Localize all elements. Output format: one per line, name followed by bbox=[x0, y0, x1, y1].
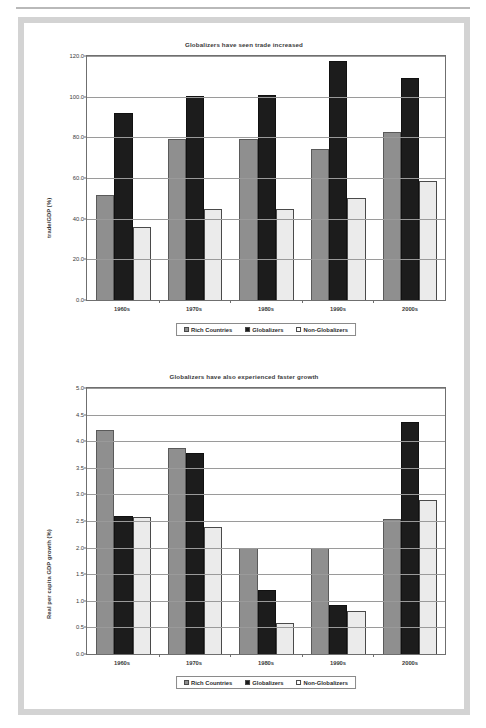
growth-chart-bar bbox=[329, 605, 347, 654]
trade-chart-x-tick-label: 1970s bbox=[158, 306, 230, 312]
legend-swatch-non-globalizers-icon bbox=[297, 680, 302, 685]
growth-chart-bar bbox=[168, 448, 186, 654]
legend-swatch-rich-countries-icon bbox=[184, 327, 189, 332]
growth-chart-y-tick-mark bbox=[84, 600, 87, 601]
growth-chart-y-tick-label: 3.5 bbox=[76, 465, 84, 471]
trade-chart-gridline bbox=[87, 259, 445, 260]
growth-chart-x-tick-label: 2000s bbox=[374, 660, 446, 666]
legend-swatch-globalizers-icon bbox=[245, 327, 250, 332]
growth-chart-bar bbox=[401, 422, 419, 654]
trade-chart-x-tick-mark bbox=[159, 300, 160, 303]
growth-chart-legend-label: Non-Globalizers bbox=[304, 680, 348, 686]
trade-chart-bar bbox=[347, 198, 365, 300]
growth-chart-x-tick-mark bbox=[159, 654, 160, 657]
growth-chart-y-tick-label: 2.5 bbox=[76, 518, 84, 524]
growth-chart-y-tick-label: 5.0 bbox=[76, 385, 84, 391]
trade-chart-gridline bbox=[87, 219, 445, 220]
growth-chart-x-tick-label: 1970s bbox=[158, 660, 230, 666]
growth-chart-y-tick-mark bbox=[84, 574, 87, 575]
growth-chart-bar bbox=[96, 430, 114, 655]
growth-chart-gridline bbox=[87, 388, 445, 389]
trade-chart-bar bbox=[133, 227, 151, 300]
trade-chart-legend-item: Non-Globalizers bbox=[297, 327, 348, 333]
trade-chart-bar bbox=[186, 96, 204, 300]
trade-chart-y-tick-mark bbox=[84, 96, 87, 97]
growth-chart-bar bbox=[114, 516, 132, 654]
legend-swatch-non-globalizers-icon bbox=[297, 327, 302, 332]
growth-chart-x-tick-mark bbox=[302, 654, 303, 657]
trade-chart-bar bbox=[204, 209, 222, 301]
growth-chart-y-tick-label: 4.5 bbox=[76, 412, 84, 418]
trade-chart-gridline bbox=[87, 137, 445, 138]
growth-chart-y-tick-label: 2.0 bbox=[76, 545, 84, 551]
growth-chart-y-tick-mark bbox=[84, 627, 87, 628]
growth-chart-plot-area: 0.00.51.01.52.02.53.03.54.04.55.0 bbox=[86, 387, 446, 655]
figure-frame: Globalizers have seen trade increased tr… bbox=[18, 17, 470, 715]
growth-chart-gridline bbox=[87, 548, 445, 549]
growth-chart-y-tick-mark bbox=[84, 388, 87, 389]
growth-chart-gridline bbox=[87, 494, 445, 495]
growth-chart-gridline bbox=[87, 601, 445, 602]
growth-chart-gridline bbox=[87, 574, 445, 575]
trade-chart-y-tick-label: 80.0 bbox=[73, 134, 84, 140]
trade-chart-x-tick-mark bbox=[230, 300, 231, 303]
growth-chart-legend-item: Non-Globalizers bbox=[297, 680, 348, 686]
growth-chart-y-tick-label: 1.5 bbox=[76, 571, 84, 577]
trade-chart-bar bbox=[96, 195, 114, 300]
trade-chart-legend-label: Non-Globalizers bbox=[304, 327, 348, 333]
trade-chart-bar bbox=[311, 149, 329, 300]
growth-chart-y-tick-mark bbox=[84, 467, 87, 468]
growth-chart-legend-label: Globalizers bbox=[252, 680, 283, 686]
trade-chart-y-tick-mark bbox=[84, 218, 87, 219]
growth-chart-y-tick-label: 1.0 bbox=[76, 598, 84, 604]
trade-chart-bar bbox=[258, 95, 276, 300]
growth-chart-y-tick-label: 0.0 bbox=[76, 651, 84, 657]
page-root: Globalizers have seen trade increased tr… bbox=[0, 0, 486, 728]
growth-chart-y-tick-mark bbox=[84, 521, 87, 522]
trade-chart-x-tick-label: 1980s bbox=[230, 306, 302, 312]
trade-chart: Globalizers have seen trade increased tr… bbox=[24, 23, 464, 369]
trade-chart-bar bbox=[383, 132, 401, 300]
growth-chart-bar bbox=[347, 611, 365, 654]
growth-chart-gridline bbox=[87, 627, 445, 628]
trade-chart-legend-label: Rich Countries bbox=[191, 327, 232, 333]
growth-chart-bar bbox=[204, 527, 222, 654]
legend-swatch-globalizers-icon bbox=[245, 680, 250, 685]
growth-chart-title: Globalizers have also experienced faster… bbox=[24, 373, 464, 380]
trade-chart-bar bbox=[276, 209, 294, 301]
legend-swatch-rich-countries-icon bbox=[184, 680, 189, 685]
trade-chart-legend-label: Globalizers bbox=[252, 327, 283, 333]
growth-chart-legend-label: Rich Countries bbox=[191, 680, 232, 686]
trade-chart-y-tick-mark bbox=[84, 137, 87, 138]
trade-chart-gridline bbox=[87, 56, 445, 57]
trade-chart-y-tick-label: 40.0 bbox=[73, 216, 84, 222]
trade-chart-y-tick-label: 100.0 bbox=[69, 94, 84, 100]
growth-chart-y-tick-label: 4.0 bbox=[76, 438, 84, 444]
growth-chart-gridline bbox=[87, 468, 445, 469]
trade-chart-x-tick-mark bbox=[373, 300, 374, 303]
trade-chart-x-tick-label: 1990s bbox=[302, 306, 374, 312]
growth-chart-gridline bbox=[87, 415, 445, 416]
trade-chart-y-tick-label: 20.0 bbox=[73, 256, 84, 262]
header-rule bbox=[16, 7, 470, 9]
trade-chart-y-tick-mark bbox=[84, 259, 87, 260]
growth-chart-x-tick-mark bbox=[230, 654, 231, 657]
growth-chart-gridline bbox=[87, 521, 445, 522]
growth-chart-legend-item: Rich Countries bbox=[184, 680, 232, 686]
trade-chart-legend-item: Globalizers bbox=[245, 327, 283, 333]
trade-chart-bar bbox=[419, 181, 437, 300]
trade-chart-gridline bbox=[87, 97, 445, 98]
growth-chart-y-tick-mark bbox=[84, 654, 87, 655]
trade-chart-y-tick-label: 120.0 bbox=[69, 53, 84, 59]
trade-chart-x-tick-mark bbox=[302, 300, 303, 303]
trade-chart-legend: Rich CountriesGlobalizersNon-Globalizers bbox=[176, 323, 356, 336]
growth-chart-x-tick-label: 1980s bbox=[230, 660, 302, 666]
growth-chart-bar bbox=[383, 519, 401, 654]
growth-chart-y-tick-mark bbox=[84, 414, 87, 415]
growth-chart-y-tick-mark bbox=[84, 441, 87, 442]
trade-chart-legend-item: Rich Countries bbox=[184, 327, 232, 333]
growth-chart-y-axis-label: Real per capita GDP growth (%) bbox=[46, 529, 52, 619]
trade-chart-plot-area: 0.020.040.060.080.0100.0120.0 bbox=[86, 55, 446, 301]
trade-chart-x-axis-labels: 1960s1970s1980s1990s2000s bbox=[86, 306, 446, 312]
growth-chart-x-tick-mark bbox=[373, 654, 374, 657]
